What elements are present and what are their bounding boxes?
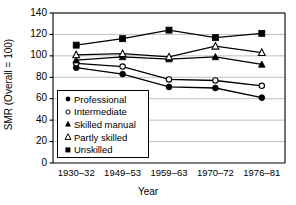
x-axis-title: Year xyxy=(0,186,296,197)
data-point-professional xyxy=(120,71,126,77)
data-point-professional xyxy=(259,95,265,101)
legend-label: Skilled manual xyxy=(74,119,136,130)
chart-container: SMR (Overall = 100) 020406080100120140 1… xyxy=(0,0,296,205)
filled-square-icon xyxy=(62,145,74,155)
y-axis-title: SMR (Overall = 100) xyxy=(0,0,18,168)
x-axis-tick-label: 1976–81 xyxy=(239,168,285,178)
y-axis-tick-label: 100 xyxy=(19,50,47,60)
data-point-unskilled xyxy=(73,42,79,48)
data-point-intermediate xyxy=(259,83,264,88)
data-point-unskilled xyxy=(120,36,126,42)
data-point-professional xyxy=(213,85,219,91)
legend-label: Professional xyxy=(74,94,126,105)
legend-label: Intermediate xyxy=(74,106,127,117)
y-axis-tick-label: 140 xyxy=(19,8,47,18)
data-point-professional xyxy=(166,84,172,90)
x-axis-tick-label: 1959–63 xyxy=(146,168,192,178)
x-axis-tick-label: 1949–53 xyxy=(100,168,146,178)
legend-label: Partly skilled xyxy=(74,132,127,143)
x-axis-tick-label: 1970–72 xyxy=(192,168,238,178)
legend-item-professional: Professional xyxy=(62,93,145,106)
open-triangle-icon xyxy=(62,132,74,142)
y-axis-tick-label: 60 xyxy=(19,93,47,103)
x-axis-tick-label: 1930–32 xyxy=(53,168,99,178)
legend-item-intermediate: Intermediate xyxy=(62,106,145,119)
data-point-unskilled xyxy=(166,27,172,33)
open-circle-icon xyxy=(62,107,74,117)
legend: ProfessionalIntermediateSkilled manualPa… xyxy=(57,90,149,158)
data-point-unskilled xyxy=(212,35,218,41)
y-axis-tick-label: 80 xyxy=(19,72,47,82)
y-axis-tick-label: 120 xyxy=(19,29,47,39)
filled-circle-icon xyxy=(62,94,74,104)
data-point-unskilled xyxy=(259,30,265,36)
filled-triangle-icon xyxy=(62,119,74,129)
y-axis-tick-label: 0 xyxy=(19,158,47,168)
y-axis-tick-label: 20 xyxy=(19,136,47,146)
data-point-intermediate xyxy=(120,64,125,69)
legend-item-partly-skilled: Partly skilled xyxy=(62,131,145,144)
legend-item-skilled-manual: Skilled manual xyxy=(62,118,145,131)
y-axis-tick-label: 40 xyxy=(19,115,47,125)
data-point-intermediate xyxy=(166,77,171,82)
legend-label: Unskilled xyxy=(74,144,113,155)
legend-item-unskilled: Unskilled xyxy=(62,143,145,156)
data-point-intermediate xyxy=(213,78,218,83)
y-axis-title-text: SMR (Overall = 100) xyxy=(4,38,15,129)
